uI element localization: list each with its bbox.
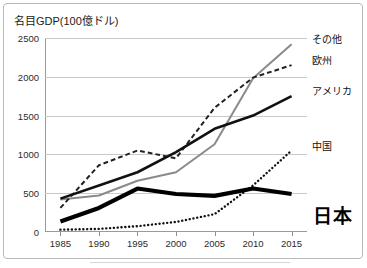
y-axis-tick-label: 2500	[18, 33, 39, 44]
y-axis-tick-label: 0	[34, 227, 39, 238]
x-axis-tick-mark	[60, 232, 61, 236]
x-axis-tick-mark	[99, 232, 100, 236]
x-axis-tick-label: 2000	[165, 238, 186, 249]
x-axis-tick-mark	[253, 232, 254, 236]
series-line-その他	[60, 44, 291, 199]
scan-artifact	[90, 262, 290, 263]
series-label-china: 中国	[312, 137, 332, 152]
x-axis-tick-label: 1990	[88, 238, 109, 249]
chart-title: 名目GDP(100億ドル)	[14, 12, 119, 28]
x-axis-tick-label: 2015	[281, 238, 302, 249]
x-axis-tick-mark	[176, 232, 177, 236]
y-axis-tick-label: 1000	[18, 149, 39, 160]
x-axis-tick-label: 2010	[242, 238, 263, 249]
series-label-japan: 日本	[313, 200, 352, 227]
x-axis-tick-mark	[292, 232, 293, 236]
x-axis-tick-label: 1985	[50, 238, 71, 249]
y-axis-tick-label: 2000	[18, 71, 39, 82]
y-axis-tick-label: 1500	[18, 110, 39, 121]
y-axis-tick-label: 500	[23, 188, 39, 199]
x-axis-tick-mark	[137, 232, 138, 236]
series-line-アメリカ	[60, 96, 291, 198]
series-lines	[45, 38, 307, 232]
x-axis-tick-label: 2005	[204, 238, 225, 249]
series-label-other: その他	[312, 31, 342, 46]
plot-area: 05001000150020002500 1985199019952000200…	[45, 38, 307, 232]
series-label-america: アメリカ	[312, 83, 352, 98]
series-label-europe: 欧州	[312, 52, 332, 67]
x-axis-tick-label: 1995	[127, 238, 148, 249]
series-line-日本	[60, 189, 291, 222]
chart-figure: 名目GDP(100億ドル) 05001000150020002500 19851…	[0, 0, 367, 268]
x-axis-tick-mark	[215, 232, 216, 236]
